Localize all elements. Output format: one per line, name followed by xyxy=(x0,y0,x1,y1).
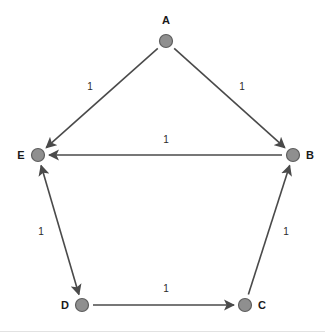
edges-layer xyxy=(41,48,290,305)
graph-node-e[interactable] xyxy=(32,149,45,162)
node-label-c: C xyxy=(258,299,266,311)
node-label-a: A xyxy=(162,14,170,26)
graph-node-a[interactable] xyxy=(160,35,173,48)
graph-edge-e-d xyxy=(41,166,79,295)
graph-figure: 111111 ABCDE xyxy=(0,0,325,335)
edge-weight-c-b: 1 xyxy=(283,226,289,237)
edge-weight-e-d: 1 xyxy=(38,226,44,237)
graph-edge-a-e xyxy=(46,48,158,147)
node-label-e: E xyxy=(17,149,24,161)
edge-weight-a-e: 1 xyxy=(87,81,93,92)
edge-labels-layer: 111111 xyxy=(38,81,289,294)
edge-weight-a-b: 1 xyxy=(239,81,245,92)
graph-node-b[interactable] xyxy=(287,149,300,162)
edge-weight-b-e: 1 xyxy=(163,134,169,145)
node-label-d: D xyxy=(61,299,69,311)
graph-canvas: 111111 ABCDE xyxy=(0,0,325,335)
graph-edge-a-b xyxy=(174,48,285,147)
graph-node-d[interactable] xyxy=(76,299,89,312)
nodes-layer: ABCDE xyxy=(17,14,314,312)
graph-node-c[interactable] xyxy=(239,299,252,312)
node-label-b: B xyxy=(306,149,314,161)
edge-weight-d-c: 1 xyxy=(163,283,169,294)
